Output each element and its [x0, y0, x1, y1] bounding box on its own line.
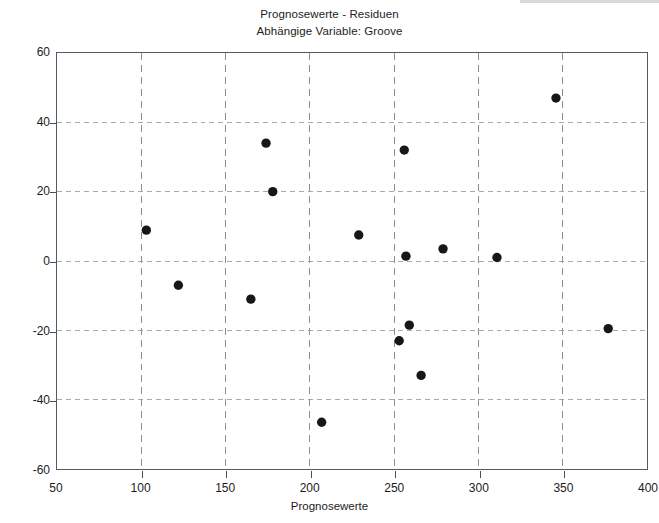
x-tick-mark [395, 471, 396, 478]
y-tick-mark [50, 401, 57, 402]
chart-subtitle: Abhängige Variable: Groove [0, 23, 659, 40]
scan-artifact [520, 0, 659, 3]
data-points-layer [57, 53, 647, 469]
y-tick-mark [50, 262, 57, 263]
y-tick-label: -60 [4, 464, 50, 476]
y-tick-label: 40 [4, 116, 50, 128]
x-tick-label: 50 [29, 482, 83, 494]
y-tick-label: -40 [4, 394, 50, 406]
data-point [268, 187, 277, 196]
x-tick-label: 400 [621, 482, 659, 494]
data-point [142, 225, 151, 234]
data-point [261, 138, 270, 147]
data-point [604, 324, 613, 333]
data-point [354, 230, 363, 239]
x-tick-mark [142, 471, 143, 478]
y-tick-label: -20 [4, 325, 50, 337]
data-point [246, 294, 255, 303]
x-tick-label: 150 [198, 482, 252, 494]
y-tick-label: 60 [4, 46, 50, 58]
y-tick-mark [50, 192, 57, 193]
chart-title-block: Prognosewerte - Residuen Abhängige Varia… [0, 6, 659, 40]
x-tick-label: 350 [536, 482, 590, 494]
data-point [492, 253, 501, 262]
x-tick-mark [226, 471, 227, 478]
data-point [416, 371, 425, 380]
x-tick-mark [480, 471, 481, 478]
data-point [174, 281, 183, 290]
x-tick-mark [311, 471, 312, 478]
data-point [438, 244, 447, 253]
x-tick-label: 200 [283, 482, 337, 494]
x-tick-mark [564, 471, 565, 478]
data-point [317, 418, 326, 427]
x-tick-label: 100 [114, 482, 168, 494]
chart-title: Prognosewerte - Residuen [0, 6, 659, 23]
data-point [405, 320, 414, 329]
y-tick-label: 0 [4, 255, 50, 267]
x-tick-label: 300 [452, 482, 506, 494]
y-tick-label: 20 [4, 185, 50, 197]
x-axis-title: Prognosewerte [0, 500, 659, 512]
x-tick-label: 250 [367, 482, 421, 494]
y-tick-mark [50, 123, 57, 124]
plot-area [56, 52, 648, 470]
data-point [551, 93, 560, 102]
data-point [401, 251, 410, 260]
y-tick-mark [50, 332, 57, 333]
scatter-plot-figure: Prognosewerte - Residuen Abhängige Varia… [0, 0, 659, 523]
data-point [400, 145, 409, 154]
data-point [395, 336, 404, 345]
